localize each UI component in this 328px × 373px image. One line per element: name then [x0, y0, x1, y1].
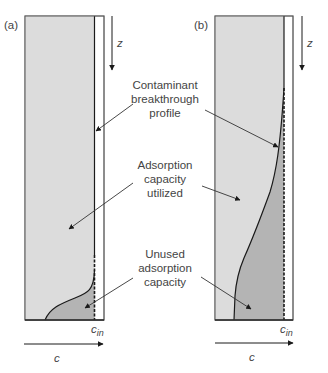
unused-line-2: adsorption — [138, 262, 192, 274]
breakthrough-line-2: breakthrough — [131, 93, 199, 105]
c-axis-label-b: c — [249, 351, 255, 363]
panel-a: (a) z cin c — [4, 16, 123, 364]
cin-label-a: cin — [91, 323, 104, 338]
cin-sub-b: in — [286, 328, 293, 338]
z-label-b: z — [306, 37, 313, 49]
c-axis-label-a: c — [54, 352, 60, 364]
utilized-line-2: capacity — [144, 173, 186, 185]
z-label-a: z — [116, 37, 123, 49]
utilized-line-1: Adsorption — [138, 159, 193, 171]
unused-line-1: Unused — [145, 248, 185, 260]
adsorption-column-diagram: (a) z cin c (b) z — [0, 0, 328, 373]
utilized-region-a — [25, 16, 95, 320]
panel-b-label: (b) — [194, 19, 208, 31]
cin-sub-a: in — [97, 328, 104, 338]
unused-line-3: capacity — [144, 276, 186, 288]
utilized-line-3: utilized — [147, 187, 183, 199]
breakthrough-line-3: profile — [149, 107, 180, 119]
breakthrough-line-1: Contaminant — [132, 79, 198, 91]
panel-a-label: (a) — [4, 19, 18, 31]
cin-label-b: cin — [280, 323, 293, 338]
